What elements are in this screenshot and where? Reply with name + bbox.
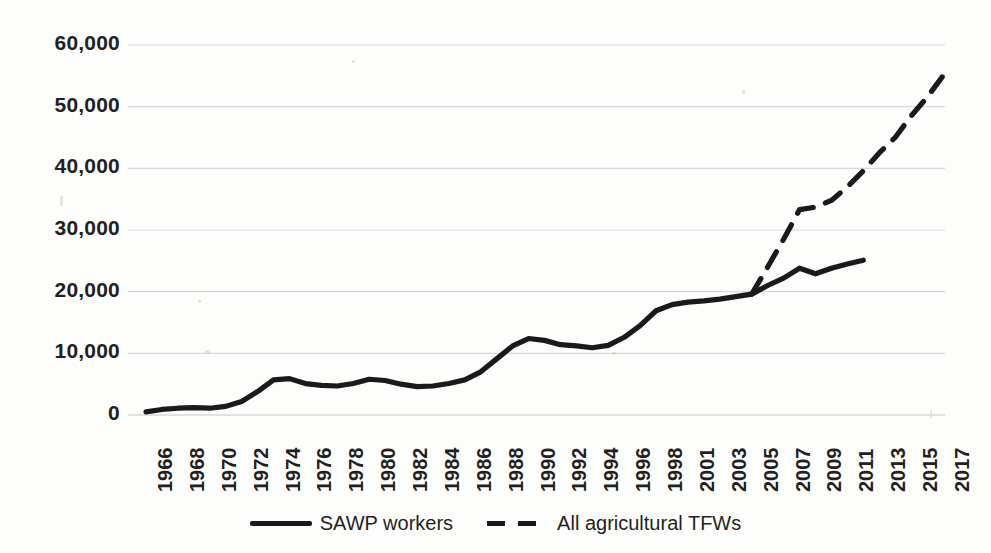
x-tick-label: 1968 [186,448,209,493]
y-tick-label: 0 [108,401,120,425]
x-tick-label: 1980 [377,448,400,493]
legend-item-all-agricultural-tfws: All agricultural TFWs [487,512,741,535]
x-tick-label: 2005 [760,448,783,493]
paper-speck [612,352,616,355]
legend-label-sawp-workers: SAWP workers [320,512,453,535]
x-tick-label: 1990 [537,448,560,493]
x-tick-label: 1994 [600,448,623,493]
y-tick-label: 50,000 [55,93,120,117]
legend-solid-line-icon [250,521,312,526]
legend-dashed-line-icon [487,521,549,526]
paper-speck [742,90,745,94]
x-tick-label: 2001 [696,448,719,493]
x-tick-label: 1988 [505,448,528,493]
x-tick-label: 2015 [919,448,942,493]
x-tick-label: 1974 [282,448,305,493]
paper-speck [205,350,210,353]
y-tick-label: 20,000 [55,278,120,302]
y-tick-label: 60,000 [55,31,120,55]
x-tick-label: 1992 [568,448,591,493]
legend-item-sawp-workers: SAWP workers [250,512,453,535]
x-tick-label: 1966 [154,448,177,493]
x-tick-label: 1996 [632,448,655,493]
x-tick-label: 1984 [441,448,464,493]
gridlines [128,45,945,415]
paper-speck [60,196,63,206]
x-tick-label: 2013 [887,448,910,493]
x-tick-label: 2011 [855,449,878,492]
chart-container: 010,00020,00030,00040,00050,00060,000 19… [0,0,991,553]
legend-label-all-agricultural-tfws: All agricultural TFWs [557,512,741,535]
x-tick-label: 1978 [345,448,368,493]
x-tick-label: 1970 [218,448,241,493]
x-tick-label: 1972 [250,448,273,493]
x-tick-label: 2007 [792,448,815,493]
x-tick-label: 2009 [823,448,846,493]
x-tick-label: 1998 [664,448,687,493]
y-tick-label: 30,000 [55,216,120,240]
series-lines [146,76,943,412]
paper-speck [930,410,932,418]
x-tick-label: 1982 [409,448,432,493]
y-tick-label: 10,000 [55,339,120,363]
x-tick-label: 1986 [473,448,496,493]
x-tick-label: 2017 [951,448,974,493]
x-tick-label: 1976 [313,448,336,493]
y-tick-label: 40,000 [55,154,120,178]
paper-speck [352,60,355,63]
x-tick-label: 2003 [728,448,751,493]
chart-legend: SAWP workers All agricultural TFWs [0,503,991,543]
paper-speck [198,300,201,303]
